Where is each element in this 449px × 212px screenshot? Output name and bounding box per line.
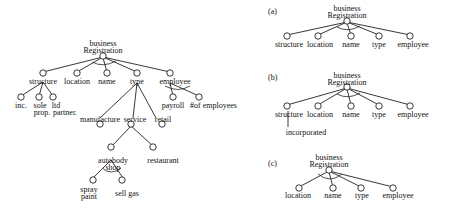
node-type xyxy=(376,103,382,109)
node-location xyxy=(74,70,80,76)
diagram-canvas: business Registration structure location… xyxy=(0,0,449,212)
label-structure: structure xyxy=(275,40,303,49)
node-name xyxy=(104,70,110,76)
panel-c-label: (c) xyxy=(268,159,277,168)
node-sell-gas xyxy=(119,177,125,183)
node-location xyxy=(315,33,321,39)
label-location: location xyxy=(64,77,90,86)
node-location xyxy=(315,103,321,109)
label-retail: retail xyxy=(155,115,172,124)
panel-c: (c) business Registration location name … xyxy=(268,153,414,200)
node-name xyxy=(348,103,354,109)
label-sell-gas: sell gas xyxy=(115,189,139,198)
label-location: location xyxy=(307,110,333,119)
panel-b: (b) business Registration structure loca… xyxy=(268,71,429,137)
root-label-line2: Registration xyxy=(327,78,366,87)
label-location: location xyxy=(285,191,311,200)
label-prop: prop. xyxy=(34,108,51,117)
node-employee xyxy=(407,33,413,39)
node-autobody-shop xyxy=(108,144,114,150)
label-structure: structure xyxy=(275,110,303,119)
label-employee: employee xyxy=(159,77,191,86)
label-employee: employee xyxy=(397,40,429,49)
edge xyxy=(100,83,137,118)
node-spray-paint xyxy=(90,177,96,183)
node-structure xyxy=(284,103,290,109)
edge xyxy=(131,126,153,146)
node-ltd-partner xyxy=(50,94,56,100)
label-employee: employee xyxy=(397,110,429,119)
label-type: type xyxy=(372,110,386,119)
edge xyxy=(133,83,137,118)
edge xyxy=(318,22,347,35)
node-num-employees xyxy=(196,94,202,100)
root-label-line2: Registration xyxy=(83,46,122,55)
edge xyxy=(137,83,156,118)
node-type xyxy=(376,33,382,39)
node-type xyxy=(134,70,140,76)
edge xyxy=(43,57,103,72)
node-payroll xyxy=(170,94,176,100)
edge xyxy=(287,88,347,105)
panel-a-label: (a) xyxy=(268,7,277,16)
label-type: type xyxy=(355,191,369,200)
label-inc: inc. xyxy=(15,101,27,110)
node-structure xyxy=(40,70,46,76)
edge xyxy=(299,171,329,187)
label-shop: shop xyxy=(105,163,120,172)
node-employee xyxy=(167,70,173,76)
label-payroll: payroll xyxy=(162,101,185,110)
label-name: name xyxy=(98,77,116,86)
label-service: service xyxy=(124,115,147,124)
label-partner: partner. xyxy=(53,108,77,117)
root-label-line2: Registration xyxy=(309,160,348,169)
left-tree: business Registration structure location… xyxy=(15,39,237,201)
label-name: name xyxy=(342,110,360,119)
label-location: location xyxy=(307,40,333,49)
node-inc xyxy=(18,94,24,100)
node-sole-prop xyxy=(36,94,42,100)
node-structure xyxy=(284,33,290,39)
node-name xyxy=(348,33,354,39)
label-employee: employee xyxy=(382,191,414,200)
root-label-line2: Registration xyxy=(327,11,366,20)
edge xyxy=(112,126,131,146)
label-num-employees: #of employees xyxy=(190,101,237,110)
panel-a: (a) business Registration structure loca… xyxy=(268,4,429,49)
label-type: type xyxy=(130,77,144,86)
label-type: type xyxy=(372,40,386,49)
node-employee xyxy=(407,103,413,109)
label-paint: paint xyxy=(81,192,98,201)
label-structure: structure xyxy=(29,77,57,86)
label-name: name xyxy=(324,191,342,200)
label-manufacture: manufacture xyxy=(80,115,120,124)
node-restaurant xyxy=(150,144,156,150)
label-name: name xyxy=(342,40,360,49)
label-incorporated: incorporated xyxy=(286,128,326,137)
label-restaurant: restaurant xyxy=(147,156,179,165)
panel-b-label: (b) xyxy=(268,73,278,82)
